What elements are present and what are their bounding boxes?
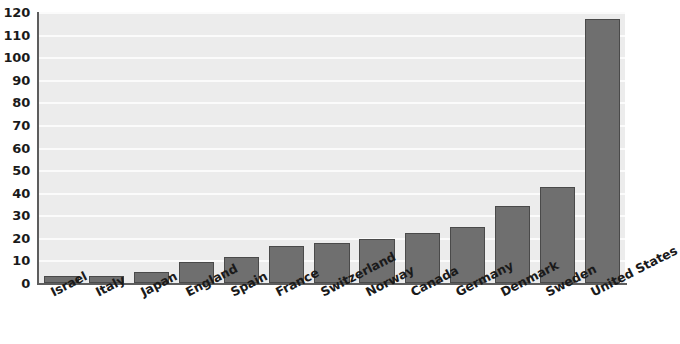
y-tick-label: 100 — [3, 50, 30, 65]
y-tick-label: 10 — [12, 253, 30, 268]
x-axis: IsraelItalyJapanEnglandSpainFranceSwitze… — [39, 286, 635, 344]
y-tick-label: 80 — [12, 95, 30, 110]
y-tick-label: 70 — [12, 117, 30, 132]
plot-area — [39, 12, 625, 283]
y-tick-label: 40 — [12, 185, 30, 200]
bar — [585, 19, 620, 283]
bars-group — [39, 12, 625, 283]
y-tick-label: 90 — [12, 72, 30, 87]
y-tick-label: 110 — [3, 27, 30, 42]
y-axis: 0102030405060708090100110120 — [0, 0, 34, 344]
y-tick-label: 30 — [12, 208, 30, 223]
y-tick-label: 120 — [3, 5, 30, 20]
y-tick-label: 20 — [12, 230, 30, 245]
y-tick-label: 50 — [12, 163, 30, 178]
y-tick-label: 0 — [21, 276, 30, 291]
y-tick-label: 60 — [12, 140, 30, 155]
